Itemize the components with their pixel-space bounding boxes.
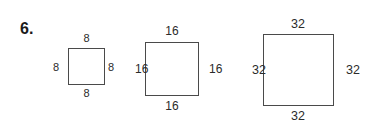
square-small-outline <box>68 48 105 85</box>
square-large-label-left: 32 <box>252 64 266 77</box>
square-large-label-right: 32 <box>346 64 360 77</box>
worksheet-problem-canvas: 6. 8 8 8 8 16 16 16 16 32 32 32 32 <box>0 0 369 127</box>
square-medium-label-top: 16 <box>165 25 178 37</box>
square-medium-outline <box>145 42 199 96</box>
square-large-outline <box>263 34 334 106</box>
square-medium-label-bottom: 16 <box>165 100 178 112</box>
square-medium-label-right: 16 <box>209 63 222 75</box>
square-small-label-left: 8 <box>53 61 59 72</box>
figure-square-small: 8 8 8 8 <box>0 0 125 127</box>
square-small-label-bottom: 8 <box>83 88 89 99</box>
square-medium-label-left: 16 <box>135 63 148 75</box>
square-small-label-top: 8 <box>83 33 89 44</box>
square-large-label-bottom: 32 <box>291 110 305 123</box>
square-small-label-right: 8 <box>108 61 114 72</box>
square-large-label-top: 32 <box>291 18 305 31</box>
